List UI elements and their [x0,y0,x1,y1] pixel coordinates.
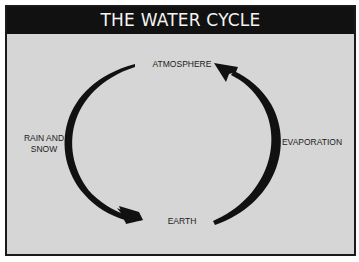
node-earth: EARTH [157,216,207,227]
node-atmosphere: ATMOSPHERE [147,59,217,70]
edge-evaporation: EVAPORATION [277,137,347,148]
rain-snow-arrow-icon [65,64,135,220]
water-cycle-diagram: ATMOSPHERE EARTH RAIN AND SNOW EVAPORATI… [7,34,354,254]
edge-rain-and-snow: RAIN AND SNOW [19,133,69,155]
diagram-frame: THE WATER CYCLE ATMOSPHERE EARTH RAIN AN… [5,5,356,256]
diagram-title: THE WATER CYCLE [7,7,354,34]
evaporation-arrow-icon [213,71,281,225]
